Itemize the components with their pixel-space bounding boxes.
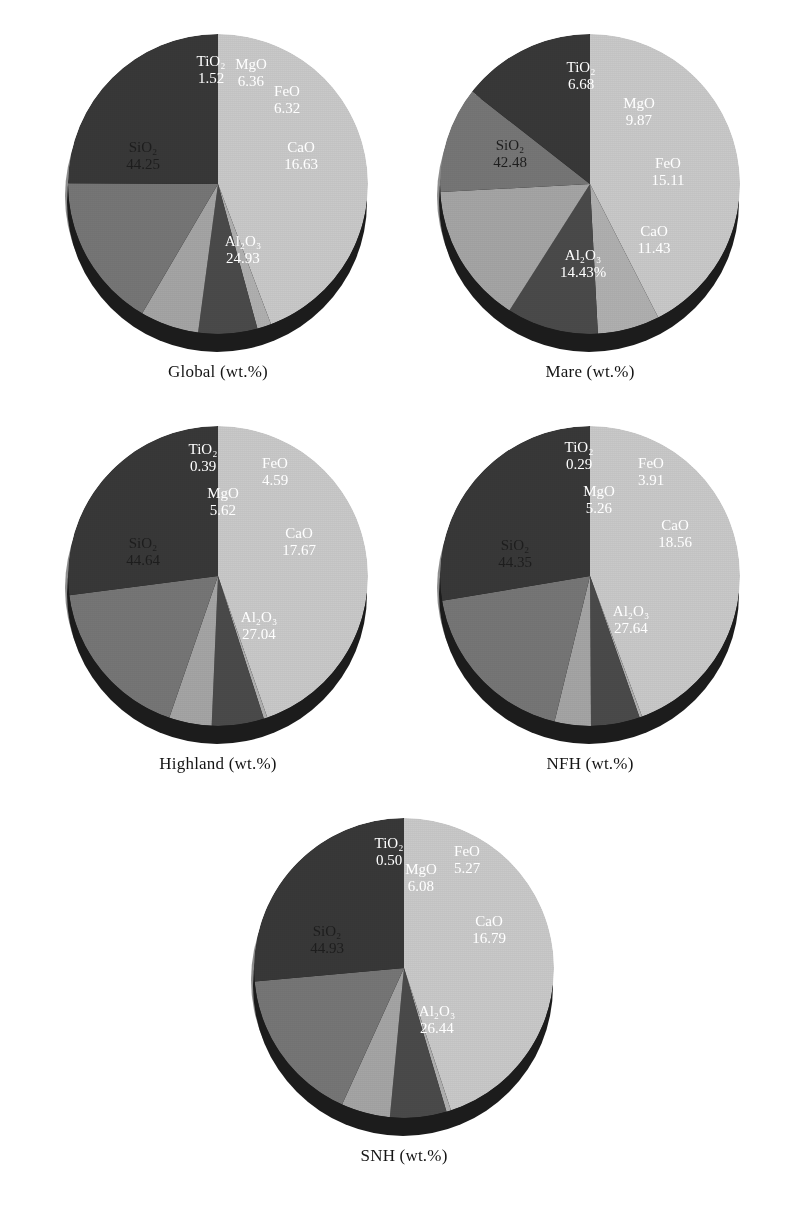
pie-chart-snh: SiO₂44.93TiO₂0.50MgO6.08FeO5.27CaO16.79A… [224, 812, 584, 1166]
pie-canvas: SiO₂44.25TiO₂1.52MgO6.36FeO6.32CaO16.63A… [63, 28, 373, 358]
pie-chart-global: SiO₂44.25TiO₂1.52MgO6.36FeO6.32CaO16.63A… [38, 28, 398, 382]
pie-slice-al2o3 [440, 426, 590, 601]
pie-canvas: SiO₂44.64TiO₂0.39MgO5.62FeO4.59CaO17.67A… [63, 420, 373, 750]
pie-slice-al2o3 [254, 818, 404, 982]
pie-slice-al2o3 [68, 426, 218, 595]
chart-title: SNH (wt.%) [224, 1146, 584, 1166]
pie-canvas: SiO₂44.93TiO₂0.50MgO6.08FeO5.27CaO16.79A… [249, 812, 559, 1142]
pie-top-face [68, 34, 368, 334]
chart-title: Global (wt.%) [38, 362, 398, 382]
chart-title: NFH (wt.%) [410, 754, 770, 774]
figure-pie-chart-grid: SiO₂44.25TiO₂1.52MgO6.36FeO6.32CaO16.63A… [0, 0, 803, 1215]
chart-title: Highland (wt.%) [38, 754, 398, 774]
pie-top-face [68, 426, 368, 726]
pie-canvas: SiO₂44.35TiO₂0.29MgO5.26FeO3.91CaO18.56A… [435, 420, 745, 750]
pie-chart-mare: SiO₂42.48TiO₂6.68MgO9.87FeO15.11CaO11.43… [410, 28, 770, 382]
pie-top-face [440, 426, 740, 726]
pie-top-face [440, 34, 740, 334]
pie-top-face [254, 818, 554, 1118]
pie-canvas: SiO₂42.48TiO₂6.68MgO9.87FeO15.11CaO11.43… [435, 28, 745, 358]
pie-chart-highland: SiO₂44.64TiO₂0.39MgO5.62FeO4.59CaO17.67A… [38, 420, 398, 774]
chart-title: Mare (wt.%) [410, 362, 770, 382]
pie-slice-al2o3 [68, 34, 218, 184]
pie-chart-nfh: SiO₂44.35TiO₂0.29MgO5.26FeO3.91CaO18.56A… [410, 420, 770, 774]
